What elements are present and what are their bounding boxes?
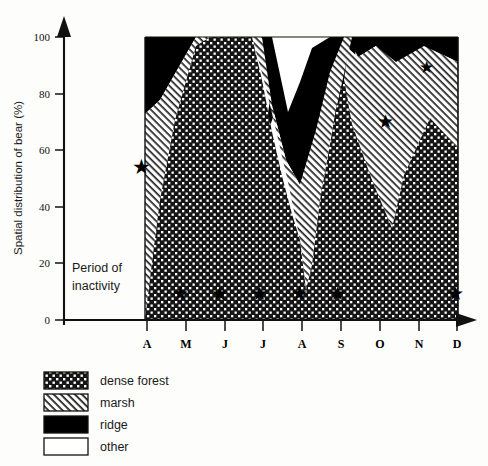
star-marker-bottom-1: ★ bbox=[172, 283, 189, 304]
legend-item-marsh[interactable]: marsh bbox=[44, 394, 135, 411]
x-tick-label-O: O bbox=[375, 337, 384, 351]
star-marker-bottom-6: ★ bbox=[447, 283, 464, 304]
figure-container: ★ ★ ★ ★ ★ ★ ★ ★ ★ 0 20 40 60 80 100 Spat… bbox=[0, 0, 488, 466]
plot-area bbox=[145, 37, 458, 320]
x-tick-label-A: A bbox=[143, 337, 152, 351]
star-marker-nov-90: ★ bbox=[419, 58, 434, 77]
y-tick-label-100: 100 bbox=[34, 31, 51, 43]
chart-svg: ★ ★ ★ ★ ★ ★ ★ ★ ★ 0 20 40 60 80 100 Spat… bbox=[0, 0, 488, 466]
legend-swatch-other bbox=[44, 438, 88, 455]
y-tick-label-0: 0 bbox=[45, 314, 51, 326]
legend-item-dense-forest[interactable]: dense forest bbox=[44, 372, 169, 389]
x-tick-label-M: M bbox=[180, 337, 191, 351]
star-marker-bottom-4: ★ bbox=[291, 283, 308, 304]
annotation-period-of-inactivity: Period of inactivity bbox=[72, 261, 123, 293]
legend-label-marsh: marsh bbox=[100, 396, 135, 410]
annotation-line-2: inactivity bbox=[72, 279, 121, 293]
y-axis-title: Spatial distribution of bear (%) bbox=[12, 101, 24, 255]
y-tick-label-80: 80 bbox=[39, 88, 51, 100]
star-marker-nov-71: ★ bbox=[377, 111, 394, 132]
legend-item-ridge[interactable]: ridge bbox=[44, 416, 128, 433]
y-tick-label-60: 60 bbox=[39, 144, 51, 156]
legend-label-dense-forest: dense forest bbox=[100, 374, 169, 388]
legend-label-ridge: ridge bbox=[100, 418, 128, 432]
y-tick-label-40: 40 bbox=[39, 201, 51, 213]
y-axis-arrowhead bbox=[57, 16, 71, 37]
y-axis: 0 20 40 60 80 100 Spatial distribution o… bbox=[12, 16, 71, 326]
x-tick-label-D: D bbox=[453, 337, 462, 351]
x-tick-label-A2: A bbox=[298, 337, 307, 351]
x-tick-label-N: N bbox=[415, 337, 424, 351]
x-tick-label-S: S bbox=[338, 337, 345, 351]
legend-swatch-marsh bbox=[44, 394, 88, 411]
x-tick-label-J1: J bbox=[222, 337, 228, 351]
star-marker-bottom-3: ★ bbox=[251, 283, 268, 304]
legend: dense forest marsh ridge other bbox=[44, 372, 169, 455]
star-marker-bottom-2: ★ bbox=[211, 283, 228, 304]
y-tick-label-20: 20 bbox=[39, 257, 51, 269]
annotation-line-1: Period of bbox=[72, 261, 123, 275]
x-tick-label-J2: J bbox=[260, 337, 266, 351]
legend-item-other[interactable]: other bbox=[44, 438, 129, 455]
legend-swatch-dense-forest bbox=[44, 372, 88, 389]
legend-swatch-ridge bbox=[44, 416, 88, 433]
legend-label-other: other bbox=[100, 440, 129, 454]
star-marker-bottom-5: ★ bbox=[329, 283, 346, 304]
star-marker-april-54: ★ bbox=[132, 155, 151, 178]
x-axis-arrowhead bbox=[456, 313, 477, 327]
